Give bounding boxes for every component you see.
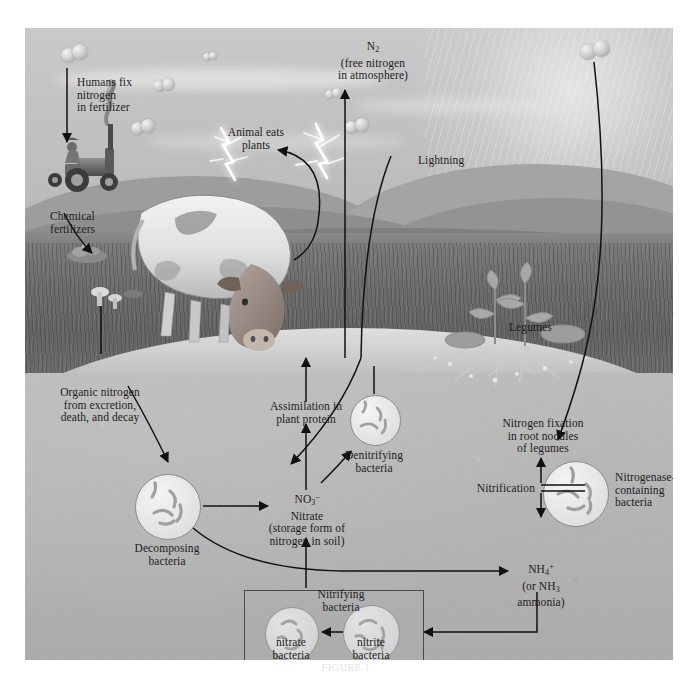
nitrate-label: NO3– Nitrate (storage form of nitrogen i… xyxy=(241,491,373,547)
humans-fix-nitrogen-label: Humans fix nitrogen in fertilizer xyxy=(77,76,132,114)
chemical-fertilizers-label: Chemical fertilizers xyxy=(50,210,95,235)
nitrification-double-line xyxy=(541,485,547,491)
illustration-canvas: N2 (free nitrogen in atmosphere) Lightni… xyxy=(25,28,673,660)
organic-nitrogen-label: Organic nitrogen from excretion, death, … xyxy=(35,386,165,424)
nitrate-bacteria-label: nitrate bacteria xyxy=(249,636,333,660)
n2-atmosphere-label: N2 (free nitrogen in atmosphere) xyxy=(321,40,425,82)
assimilation-label: Assimilation in plant protein xyxy=(241,400,371,425)
legumes-label: Legumes xyxy=(509,321,552,334)
nitrogen-cycle-figure: N2 (free nitrogen in atmosphere) Lightni… xyxy=(0,0,692,683)
nitrification-double-line xyxy=(547,485,585,491)
nitrification-label: Nitrification xyxy=(423,482,535,495)
nitrifying-bacteria-title: Nitrifying bacteria xyxy=(293,588,389,613)
nitrogenase-bacteria-label: Nitrogenase- containing bacteria xyxy=(615,471,673,509)
arrow-n2-to-nitrogenase xyxy=(558,62,602,440)
arrow-animal-eats-plants xyxy=(278,150,320,260)
lightning-label: Lightning xyxy=(418,154,464,167)
n2-formula: N2 xyxy=(367,40,380,52)
animal-eats-plants-label: Animal eats plants xyxy=(211,126,301,151)
ammonia-alt: (or NH3 xyxy=(522,580,560,592)
nitrogen-fixation-label: Nitrogen fixation in root nodules of leg… xyxy=(469,417,617,455)
ammonium-label: NH4+ (or NH3 ammonia) xyxy=(493,561,589,609)
arrow-lightning-to-soil xyxy=(361,156,391,358)
denitrifying-bacteria-label: Denitrifying bacteria xyxy=(321,449,427,474)
figure-caption: FIGURE 1 xyxy=(0,662,692,673)
decomposing-bacteria-label: Decomposing bacteria xyxy=(109,542,225,567)
nitrate-formula: NO3– xyxy=(294,493,319,505)
nitrite-bacteria-label: nitrite bacteria xyxy=(329,636,413,660)
ammonium-formula: NH4+ xyxy=(528,563,554,575)
